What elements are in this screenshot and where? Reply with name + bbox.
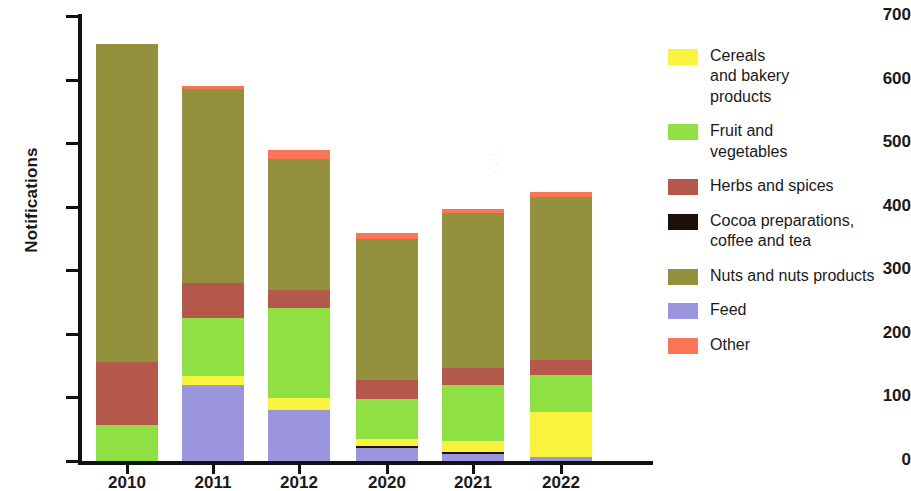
legend-item[interactable]: Other — [668, 335, 911, 355]
bar-segment — [356, 399, 418, 440]
legend-item[interactable]: Nuts and nuts products — [668, 266, 911, 286]
bar-segment — [442, 368, 504, 385]
bar-segment — [442, 441, 504, 452]
legend-label: Cereals and bakery products — [710, 46, 789, 107]
legend-label: Fruit and vegetables — [710, 121, 787, 162]
legend-item[interactable]: Herbs and spices — [668, 176, 911, 196]
chart-legend: Cereals and bakery productsFruit and veg… — [668, 46, 911, 369]
legend-item[interactable]: Cocoa preparations, coffee and tea — [668, 211, 911, 252]
bar-segment — [530, 412, 592, 457]
bar-segment — [182, 385, 244, 461]
legend-item[interactable]: Fruit and vegetables — [668, 121, 911, 162]
bar-segment — [442, 213, 504, 368]
y-axis-title: Notifications — [22, 120, 42, 280]
bar-segment — [268, 159, 330, 290]
bar-segment — [268, 290, 330, 308]
y-axis-tick — [66, 333, 80, 336]
bar-segment — [268, 410, 330, 461]
legend-item[interactable]: Feed — [668, 300, 911, 320]
y-axis-tick-label: 700 — [853, 5, 911, 25]
bar-segment — [356, 439, 418, 446]
y-axis-tick — [66, 79, 80, 82]
bar-segment — [356, 448, 418, 461]
bar-segment — [530, 457, 592, 461]
legend-label: Cocoa preparations, coffee and tea — [710, 211, 854, 252]
y-axis-tick — [66, 460, 80, 463]
y-axis-tick-label: 100 — [853, 386, 911, 406]
legend-item[interactable]: Cereals and bakery products — [668, 46, 911, 107]
legend-label: Herbs and spices — [710, 176, 834, 196]
legend-swatch-icon — [668, 49, 698, 65]
bar-segment — [182, 376, 244, 385]
bar-segment — [268, 308, 330, 398]
bar-segment — [530, 197, 592, 360]
bar-2010[interactable] — [96, 44, 158, 461]
stacked-bar-chart: Notifications 7006005004003002001000 201… — [0, 0, 911, 491]
bar-segment — [182, 89, 244, 283]
x-axis-tick-label: 2010 — [87, 473, 167, 491]
bar-segment — [356, 380, 418, 399]
y-axis-tick — [66, 269, 80, 272]
bar-segment — [96, 425, 158, 461]
bar-2021[interactable] — [442, 209, 504, 461]
legend-label: Other — [710, 335, 750, 355]
bar-segment — [182, 318, 244, 376]
bar-segment — [96, 44, 158, 362]
bar-segment — [182, 283, 244, 318]
x-axis-tick-label: 2012 — [259, 473, 339, 491]
x-axis-tick-label: 2021 — [433, 473, 513, 491]
x-axis-tick-label: 2020 — [347, 473, 427, 491]
scan-artifact: · ·˙·˙·˙ · — [489, 150, 511, 190]
legend-label: Nuts and nuts products — [710, 266, 875, 286]
legend-swatch-icon — [668, 214, 698, 230]
bar-segment — [268, 150, 330, 159]
bar-segment — [442, 385, 504, 441]
legend-swatch-icon — [668, 179, 698, 195]
legend-label: Feed — [710, 300, 746, 320]
y-axis-tick — [66, 206, 80, 209]
bar-segment — [356, 239, 418, 380]
bar-segment — [442, 454, 504, 461]
legend-swatch-icon — [668, 303, 698, 319]
bar-2011[interactable] — [182, 86, 244, 461]
bar-segment — [530, 360, 592, 375]
x-axis-tick-label: 2011 — [173, 473, 253, 491]
y-axis-tick — [66, 142, 80, 145]
legend-swatch-icon — [668, 124, 698, 140]
bar-segment — [268, 398, 330, 410]
bar-2022[interactable] — [530, 192, 592, 461]
legend-swatch-icon — [668, 269, 698, 285]
bar-2020[interactable] — [356, 233, 418, 461]
bar-2012[interactable] — [268, 150, 330, 461]
y-axis-tick — [66, 15, 80, 18]
x-axis-tick-label: 2022 — [521, 473, 601, 491]
y-axis-tick-label: 0 — [853, 450, 911, 470]
y-axis-tick — [66, 396, 80, 399]
legend-swatch-icon — [668, 338, 698, 354]
bar-segment — [96, 362, 158, 425]
bar-segment — [530, 375, 592, 412]
x-axis-line — [78, 461, 653, 465]
